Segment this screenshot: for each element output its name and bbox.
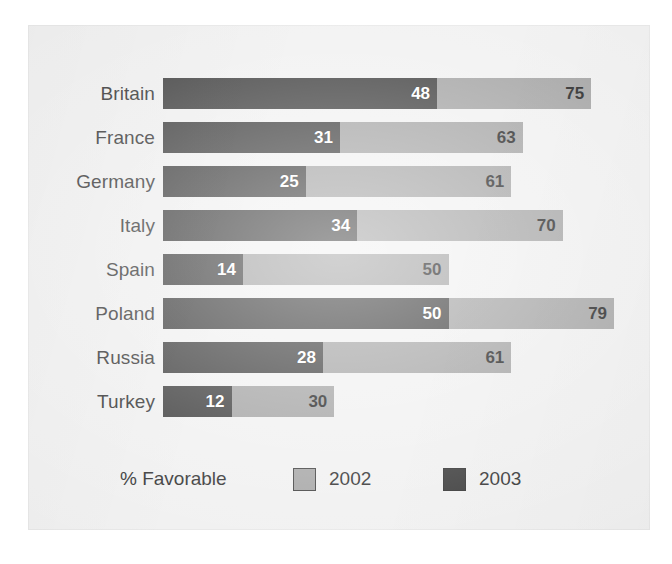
bar-row: Russia2861	[28, 342, 650, 373]
bar-track: 3470	[163, 210, 563, 241]
legend-swatch-2002-icon	[293, 468, 316, 491]
value-label-2003-france: 31	[307, 122, 333, 153]
bar-2003-britain	[163, 78, 437, 109]
value-label-2003-russia: 28	[290, 342, 316, 373]
category-label-france: France	[28, 122, 155, 153]
bar-row: Turkey1230	[28, 386, 650, 417]
value-label-2003-spain: 14	[210, 254, 236, 285]
category-label-russia: Russia	[28, 342, 155, 373]
value-label-2002-germany: 61	[478, 166, 504, 197]
bar-row: France3163	[28, 122, 650, 153]
bar-track: 1230	[163, 386, 334, 417]
value-label-2003-italy: 34	[324, 210, 350, 241]
bar-track: 5079	[163, 298, 614, 329]
value-label-2002-poland: 79	[581, 298, 607, 329]
legend-swatch-2003-icon	[443, 468, 466, 491]
legend-label-2003: 2003	[479, 468, 521, 490]
value-label-2003-turkey: 12	[199, 386, 225, 417]
category-label-germany: Germany	[28, 166, 155, 197]
value-label-2002-turkey: 30	[301, 386, 327, 417]
bar-row: Britain4875	[28, 78, 650, 109]
category-label-italy: Italy	[28, 210, 155, 241]
bar-2003-poland	[163, 298, 449, 329]
legend-title: % Favorable	[120, 455, 227, 503]
value-label-2003-germany: 25	[273, 166, 299, 197]
legend-label-2002: 2002	[329, 468, 371, 490]
category-label-britain: Britain	[28, 78, 155, 109]
value-label-2002-italy: 70	[530, 210, 556, 241]
value-label-2003-britain: 48	[404, 78, 430, 109]
bar-track: 2561	[163, 166, 511, 197]
bar-track: 3163	[163, 122, 523, 153]
value-label-2003-poland: 50	[416, 298, 442, 329]
chart-screenshot: Britain4875France3163Germany2561Italy347…	[0, 0, 672, 564]
category-label-spain: Spain	[28, 254, 155, 285]
bar-row: Italy3470	[28, 210, 650, 241]
bar-track: 1450	[163, 254, 449, 285]
value-label-2002-france: 63	[490, 122, 516, 153]
bar-row: Poland5079	[28, 298, 650, 329]
value-label-2002-spain: 50	[416, 254, 442, 285]
category-label-poland: Poland	[28, 298, 155, 329]
legend-entry-2003: 2003	[443, 455, 521, 503]
bar-track: 4875	[163, 78, 591, 109]
value-label-2002-britain: 75	[558, 78, 584, 109]
bar-track: 2861	[163, 342, 511, 373]
legend-entry-2002: 2002	[293, 455, 371, 503]
bar-row: Germany2561	[28, 166, 650, 197]
value-label-2002-russia: 61	[478, 342, 504, 373]
chart-panel: Britain4875France3163Germany2561Italy347…	[28, 25, 650, 530]
category-label-turkey: Turkey	[28, 386, 155, 417]
chart-legend: % Favorable 2002 2003	[28, 455, 650, 503]
bar-row: Spain1450	[28, 254, 650, 285]
